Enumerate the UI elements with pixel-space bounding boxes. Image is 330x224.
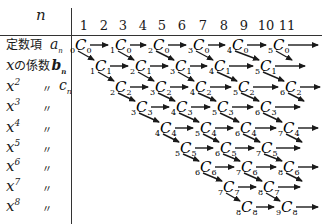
binomial-node: 2C0 bbox=[148, 36, 170, 55]
binomial-node: 3C0 bbox=[188, 36, 210, 55]
binomial-node: 4C0 bbox=[227, 36, 249, 55]
binomial-node: 0C0 bbox=[70, 36, 92, 55]
binomial-node: 1C0 bbox=[110, 36, 132, 55]
nodes: 0C01C02C03C04C05C01C12C13C14C15C12C23C24… bbox=[70, 36, 302, 217]
binomial-node: 5C0 bbox=[268, 36, 290, 55]
pascal-arrow-diagram: 0C01C02C03C04C05C01C12C13C14C15C12C23C24… bbox=[0, 0, 330, 224]
